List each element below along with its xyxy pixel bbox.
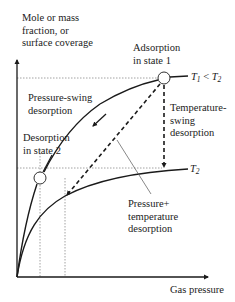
temperature-swing-label-line1: Temperature- (170, 102, 226, 113)
t2-subscript: 2 (218, 75, 222, 84)
less-than-sign: < (201, 71, 212, 82)
state1-label-line2: in state 1 (133, 55, 171, 66)
state2-label-line2: in state 2 (23, 145, 61, 156)
y-axis-label-line2: fraction, or (22, 25, 69, 36)
t2-curve-label: T2 (190, 163, 200, 179)
temperature-swing-label-line3: desorption (170, 127, 214, 138)
ptd-label-line2: temperature (128, 211, 178, 222)
pressure-swing-label-line2: desorption (28, 105, 72, 116)
x-axis-label: Gas pressure (170, 284, 224, 297)
state2-marker (34, 172, 46, 184)
t1-curve-label: T1 < T2 (191, 71, 221, 87)
pressure-swing-arrow (93, 114, 106, 126)
ptd-label-line1: Pressure+ (128, 198, 170, 209)
pressure-swing-label-line1: Pressure-swing (28, 92, 92, 103)
t1-curve-tail (170, 76, 188, 77)
ptd-leader-line (117, 140, 151, 194)
y-axis-label-line1: Mole or mass (22, 12, 79, 23)
pressure-swing-label: Pressure-swing desorption (28, 92, 92, 117)
state1-label: Adsorption in state 1 (133, 42, 180, 67)
t1-mid-gap-fill (73, 130, 88, 145)
state2-leader-line (43, 155, 52, 172)
temperature-swing-label: Temperature- swing desorption (170, 102, 226, 140)
state1-label-line1: Adsorption (133, 42, 180, 53)
t2-curve-subscript: 2 (196, 167, 200, 176)
temperature-swing-label-line2: swing (170, 115, 195, 126)
state2-label-line1: Desorption (23, 132, 70, 143)
ptd-label-line3: desorption (128, 223, 172, 234)
pressure-temperature-label: Pressure+ temperature desorption (128, 198, 178, 236)
y-axis-label: Mole or mass fraction, or surface covera… (22, 12, 93, 50)
state2-label: Desorption in state 2 (23, 132, 70, 157)
y-axis-label-line3: surface coverage (22, 37, 93, 48)
t1-curve-upper (100, 80, 158, 104)
state1-marker (158, 72, 170, 84)
